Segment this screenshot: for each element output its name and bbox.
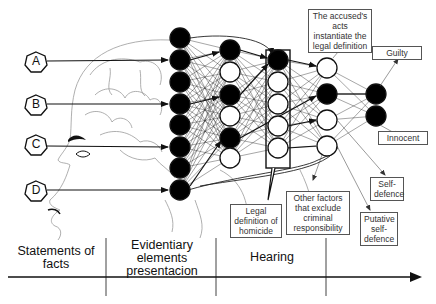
layer-2-node-1 <box>220 40 240 60</box>
layer-1-node-1 <box>170 28 190 48</box>
layer-1-node-4 <box>170 94 190 114</box>
legal-definition-label: Legal definition of homicide <box>230 204 282 238</box>
long-connections <box>188 36 338 190</box>
layer-1-node-8 <box>170 180 190 200</box>
innocent-label: Innocent <box>378 131 428 145</box>
layer-3-node-2 <box>268 72 288 92</box>
layer-1-node-5 <box>170 115 190 135</box>
accused-acts-label: The accused's acts instantiate the legal… <box>308 9 372 53</box>
layer-4-node-4 <box>317 136 337 156</box>
input-label-d: D <box>26 183 46 197</box>
layer-1-node-3 <box>170 72 190 92</box>
layer-4-node-1 <box>317 58 337 78</box>
self-defence-label: Self-defence <box>370 177 404 201</box>
layer-3-node-4 <box>268 116 288 136</box>
putative-self-defence-label: Putative self-defence <box>360 212 398 246</box>
phase-evidentiary-elements: Evidentiary elements presentacion <box>112 239 212 278</box>
eye-icon <box>76 151 90 157</box>
layer-1-node-6 <box>170 137 190 157</box>
layer-4-node-2 <box>317 84 337 104</box>
layer-1-node-2 <box>170 50 190 70</box>
phase-hearing: Hearing <box>222 251 322 264</box>
input-label-b: B <box>26 97 46 111</box>
guilty-label: Guilty <box>372 46 422 60</box>
layer-3-node-1 <box>268 50 288 70</box>
layer-2-node-5 <box>220 128 240 148</box>
layer-3-node-3 <box>268 94 288 114</box>
layer-2-node-2 <box>220 62 240 82</box>
layer-2-node-3 <box>220 85 240 105</box>
phase-statements-of-facts: Statements of facts <box>8 245 104 271</box>
layer-4-node-3 <box>317 110 337 130</box>
layer-1-node-7 <box>170 158 190 178</box>
network-nodes <box>170 28 386 200</box>
timeline-arrowhead <box>410 272 422 282</box>
layer-2-node-4 <box>220 106 240 126</box>
other-factors-label: Other factors that exclude criminal resp… <box>286 191 350 235</box>
nose-mark <box>48 209 60 214</box>
input-label-a: A <box>26 54 46 68</box>
input-label-c: C <box>26 137 46 151</box>
layer-5-node-1 <box>366 84 386 104</box>
layer-5-node-2 <box>366 106 386 126</box>
input-nodes <box>25 52 47 201</box>
input-arrows <box>47 60 168 190</box>
layer-2-node-6 <box>220 148 240 168</box>
layer-3-node-5 <box>268 138 288 158</box>
